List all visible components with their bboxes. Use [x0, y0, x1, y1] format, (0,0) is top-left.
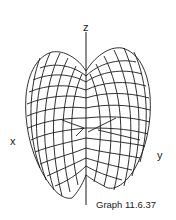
- y-axis-label: y: [157, 150, 163, 161]
- z-axis-label: z: [83, 22, 89, 33]
- wireframe-figure: z x y Graph 11.6.37: [0, 0, 176, 220]
- figure-caption: Graph 11.6.37: [96, 200, 156, 210]
- wireframe-surface: [0, 0, 176, 220]
- x-axis-label: x: [10, 136, 16, 147]
